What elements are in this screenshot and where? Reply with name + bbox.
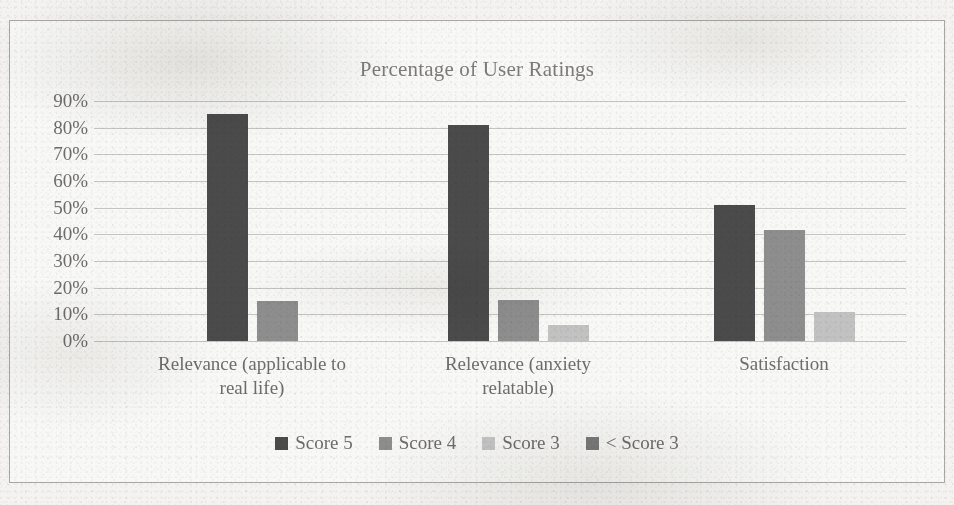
legend-label: Score 3 bbox=[502, 432, 560, 454]
y-tick-label: 80% bbox=[53, 117, 88, 139]
x-axis-label-line: Relevance (applicable to bbox=[122, 352, 382, 376]
bar-score-5 bbox=[207, 114, 248, 341]
bar-score-4 bbox=[764, 230, 805, 341]
legend-swatch-icon bbox=[275, 437, 288, 450]
x-axis-category-label: Satisfaction bbox=[654, 352, 914, 376]
chart-legend: Score 5Score 4Score 3< Score 3 bbox=[0, 432, 954, 454]
legend-item[interactable]: Score 3 bbox=[482, 432, 560, 454]
y-tick-label: 70% bbox=[53, 143, 88, 165]
y-tick-label: 30% bbox=[53, 250, 88, 272]
legend-swatch-icon bbox=[379, 437, 392, 450]
bar-group-container bbox=[94, 101, 906, 341]
legend-item[interactable]: < Score 3 bbox=[586, 432, 679, 454]
legend-swatch-icon bbox=[482, 437, 495, 450]
x-axis-label-line: Relevance (anxiety bbox=[388, 352, 648, 376]
x-axis-labels: Relevance (applicable toreal life)Releva… bbox=[94, 352, 906, 408]
x-axis-label-line: relatable) bbox=[388, 376, 648, 400]
y-tick-label: 10% bbox=[53, 303, 88, 325]
bar-score-4 bbox=[498, 300, 539, 341]
legend-item[interactable]: Score 4 bbox=[379, 432, 457, 454]
legend-label: Score 5 bbox=[295, 432, 353, 454]
y-tick-label: 90% bbox=[53, 90, 88, 112]
chart-title: Percentage of User Ratings bbox=[10, 57, 944, 82]
y-tick-label: 40% bbox=[53, 223, 88, 245]
bar-score-5 bbox=[714, 205, 755, 341]
x-axis-category-label: Relevance (anxietyrelatable) bbox=[388, 352, 648, 400]
y-tick-label: 20% bbox=[53, 277, 88, 299]
x-axis-category-label: Relevance (applicable toreal life) bbox=[122, 352, 382, 400]
y-axis-labels: 90%80%70%60%50%40%30%20%10%0% bbox=[22, 101, 88, 341]
legend-swatch-icon bbox=[586, 437, 599, 450]
plot-area bbox=[94, 101, 906, 341]
legend-label: Score 4 bbox=[399, 432, 457, 454]
x-axis-label-line: Satisfaction bbox=[654, 352, 914, 376]
bar-score-5 bbox=[448, 125, 489, 341]
legend-item[interactable]: Score 5 bbox=[275, 432, 353, 454]
y-tick-label: 50% bbox=[53, 197, 88, 219]
bar-score-3 bbox=[548, 325, 589, 341]
y-tick-label: 0% bbox=[63, 330, 88, 352]
gridline bbox=[94, 341, 906, 342]
legend-label: < Score 3 bbox=[606, 432, 679, 454]
y-tick-label: 60% bbox=[53, 170, 88, 192]
bar-score-4 bbox=[257, 301, 298, 341]
bar-score-3 bbox=[814, 312, 855, 341]
x-axis-label-line: real life) bbox=[122, 376, 382, 400]
